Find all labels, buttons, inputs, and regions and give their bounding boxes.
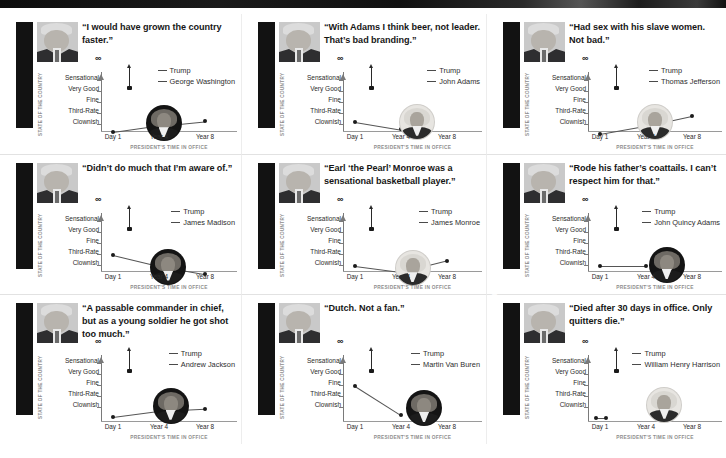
legend-dash-icon [169,364,178,366]
plot-region: ∞TrumpJohn Adams [343,64,482,132]
y-tick-label: Very Good [555,368,586,376]
legend-item-trump: Trump [411,349,480,358]
series-data-point [111,415,115,419]
y-tick-mark [97,363,101,364]
trump-portrait-photo [279,303,320,343]
trump-portrait-photo [37,22,78,62]
trump-datapoint [614,227,619,232]
y-axis-title-label: STATE OF THE COUNTRY [523,356,533,419]
y-tick-mark [339,265,343,266]
y-tick-label: Clownish [315,118,341,126]
x-axis-tick-labels: Day 1Year 4Year 8 [343,133,482,142]
x-tick-label: Year 8 [683,423,701,430]
chart-legend: TrumpJames Monroe [419,207,480,229]
trump-datapoint [127,86,132,91]
y-tick-label: Clownish [73,118,99,126]
y-axis-line [343,213,344,272]
trump-quote: “Rode his father’s coattails. I can’t re… [569,162,720,188]
president-name-label: JOHN QUINCY ADAMS [486,171,503,264]
y-tick-label: Third-Rate [68,107,99,115]
x-tick-label: Year 4 [150,423,168,430]
trump-portrait-photo [37,163,78,203]
legend-label-trump: Trump [170,66,191,75]
x-tick-label: Year 4 [637,133,655,140]
y-axis-title-label: STATE OF THE COUNTRY [36,73,46,136]
y-tick-label: Sensational [307,215,341,223]
y-tick-mark [97,80,101,81]
y-tick-mark [97,124,101,125]
y-tick-mark [584,265,588,266]
arrow-up-icon [614,347,618,351]
y-tick-mark [584,385,588,386]
y-tick-mark [339,385,343,386]
legend-item-president: John Adams [427,77,480,86]
y-tick-label: Third-Rate [555,107,586,115]
y-axis-tick-labels: SensationalVery GoodFineThird-RateClowni… [539,215,586,275]
y-tick-mark [339,91,343,92]
y-tick-mark [339,80,343,81]
x-axis-tick-labels: Day 1Year 4Year 8 [588,273,722,282]
legend-item-trump: Trump [158,66,235,75]
x-axis-tick-labels: Day 1Year 4Year 8 [343,423,482,432]
arrow-up-icon [614,64,618,68]
y-tick-label: Sensational [65,215,99,223]
plot-region: ∞TrumpWilliam Henry Harrison [588,347,722,422]
portrait-tie [542,331,546,343]
x-axis-tick-labels: Day 1Year 4Year 8 [588,423,722,432]
president-name-bar: JAMES MADISON [16,163,33,269]
president-panel: MARTIN VAN BUREN“Dutch. Not a fan.”STATE… [242,294,487,444]
series-data-point [598,264,602,268]
trump-quote: “Didn’t do much that I’m aware of.” [82,162,235,175]
top-banner-strip [0,0,726,8]
y-tick-mark [584,124,588,125]
legend-dash-icon [642,222,651,224]
series-data-point [604,416,608,420]
chart-area: STATE OF THE COUNTRYSensationalVery Good… [531,62,724,150]
legend-item-president: James Madison [171,218,235,227]
y-tick-label: Clownish [560,401,586,409]
y-axis-title-label: STATE OF THE COUNTRY [278,73,288,136]
trump-quote: “Dutch. Not a fan.” [324,302,480,315]
trump-quote: “Earl ‘the Pearl’ Monroe was a sensation… [324,162,480,188]
plot-region: ∞TrumpGeorge Washington [101,64,237,132]
infinity-symbol: ∞ [337,54,343,63]
president-panel: JAMES MADISON“Didn’t do much that I’m aw… [0,154,242,294]
y-tick-label: Sensational [552,357,586,365]
y-tick-label: Sensational [307,357,341,365]
y-tick-mark [339,407,343,408]
legend-item-trump: Trump [419,207,480,216]
y-axis-title-label: STATE OF THE COUNTRY [278,214,288,277]
infinity-symbol: ∞ [337,337,343,346]
y-tick-mark [584,363,588,364]
infinity-symbol: ∞ [337,195,343,204]
legend-label-president: James Monroe [431,218,480,227]
y-tick-mark [584,113,588,114]
trump-datapoint [369,86,374,91]
legend-dash-icon [419,211,428,213]
y-tick-label: Very Good [555,85,586,93]
y-tick-mark [339,374,343,375]
y-tick-mark [339,232,343,233]
series-data-point [203,119,207,123]
portrait-tie [542,191,546,203]
x-tick-label: Day 1 [592,273,609,280]
x-tick-label: Day 1 [105,273,122,280]
portrait-tie [55,191,59,203]
y-tick-mark [97,221,101,222]
legend-label-trump: Trump [181,349,202,358]
president-name-label: JAMES MADISON [0,192,16,264]
president-panel: JOHN QUINCY ADAMS“Rode his father’s coat… [487,154,726,294]
president-panel: THOMAS JEFFERSON“Had sex with his slave … [487,14,726,154]
trump-datapoint [369,227,374,232]
y-axis-title-label: STATE OF THE COUNTRY [278,356,288,419]
y-tick-mark [584,243,588,244]
chart-area: STATE OF THE COUNTRYSensationalVery Good… [286,62,484,150]
x-axis-title: PRESIDENT'S TIME IN OFFICE [343,435,482,440]
chart-area: STATE OF THE COUNTRYSensationalVery Good… [531,345,724,440]
y-axis-line [588,72,589,132]
y-axis-line [343,355,344,422]
legend-dash-icon [642,211,651,213]
y-tick-mark [97,254,101,255]
trump-infinity-arrow [371,209,372,229]
legend-dash-icon [171,211,180,213]
